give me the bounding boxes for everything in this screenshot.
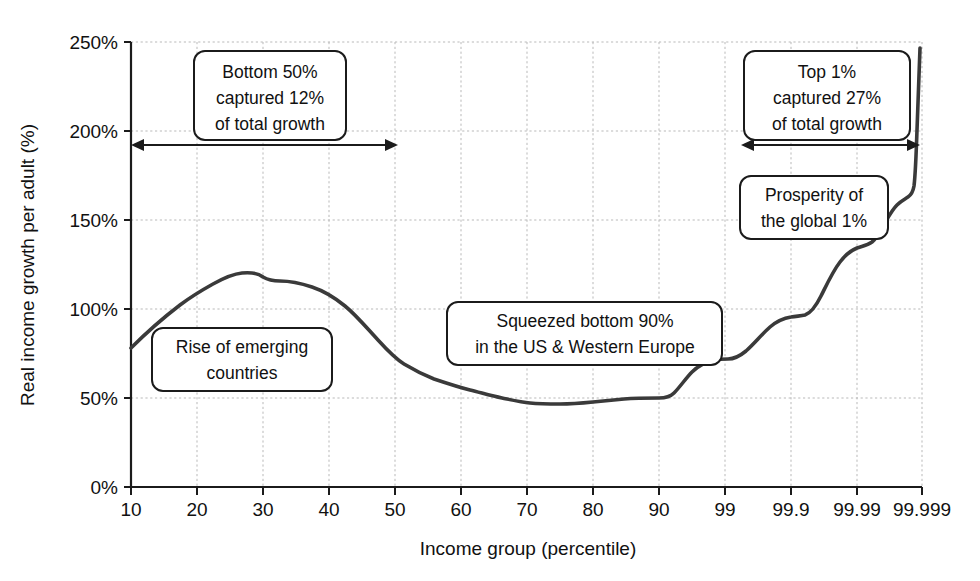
annotation-prosperity-global-1-line-2: the global 1% (761, 211, 867, 231)
ytick-label-100: 100% (69, 299, 118, 320)
arrow-head-left-icon (131, 139, 144, 151)
annotation-squeezed-bottom-90: Squeezed bottom 90% in the US & Western … (447, 302, 722, 365)
ytick-label-50: 50% (80, 388, 118, 409)
xtick-label-99-99: 99.99 (833, 499, 881, 520)
y-axis-title: Real income growth per adult (%) (17, 124, 38, 406)
xtick-label-99-999: 99.999 (893, 499, 951, 520)
annotation-rise-emerging-line-2: countries (206, 363, 277, 383)
xtick-label-50: 50 (384, 499, 405, 520)
annotation-bottom-50-line-1: Bottom 50% (222, 62, 317, 82)
x-axis-title: Income group (percentile) (420, 538, 637, 559)
annotation-top-1-line-3: of total growth (772, 114, 882, 134)
xtick-label-70: 70 (516, 499, 537, 520)
arrow-head-right-icon (385, 139, 398, 151)
annotation-prosperity-global-1-line-1: Prosperity of (765, 185, 863, 205)
ytick-label-200: 200% (69, 121, 118, 142)
xtick-label-40: 40 (318, 499, 339, 520)
elephant-curve-chart: 250% 200% 150% 100% 50% 0% 10 20 30 40 5… (0, 0, 980, 581)
xtick-label-30: 30 (252, 499, 273, 520)
xtick-label-90: 90 (648, 499, 669, 520)
annotation-squeezed-bottom-90-line-1: Squeezed bottom 90% (496, 311, 673, 331)
annotation-top-1-line-1: Top 1% (798, 62, 856, 82)
annotation-squeezed-bottom-90-line-2: in the US & Western Europe (475, 337, 695, 357)
x-axis-tick-labels: 10 20 30 40 50 60 70 80 90 99 99.9 99.99… (120, 499, 951, 520)
chart-canvas: 250% 200% 150% 100% 50% 0% 10 20 30 40 5… (0, 0, 980, 581)
y-axis-tick-labels: 250% 200% 150% 100% 50% 0% (69, 32, 118, 498)
xtick-label-60: 60 (450, 499, 471, 520)
ytick-label-250: 250% (69, 32, 118, 53)
annotation-rise-emerging: Rise of emerging countries (152, 328, 332, 391)
annotation-bottom-50-line-3: of total growth (215, 114, 325, 134)
annotation-top-1: Top 1% captured 27% of total growth (744, 51, 910, 140)
xtick-label-20: 20 (186, 499, 207, 520)
xtick-label-10: 10 (120, 499, 141, 520)
annotation-rise-emerging-line-1: Rise of emerging (176, 337, 308, 357)
xtick-label-99: 99 (714, 499, 735, 520)
annotation-top-1-line-2: captured 27% (773, 88, 881, 108)
ytick-label-0: 0% (91, 477, 119, 498)
ytick-label-150: 150% (69, 210, 118, 231)
arrow-head-left-icon (741, 139, 754, 151)
annotation-prosperity-global-1: Prosperity of the global 1% (740, 176, 888, 239)
xtick-label-80: 80 (582, 499, 603, 520)
annotation-bottom-50: Bottom 50% captured 12% of total growth (194, 51, 346, 140)
x-tick-marks (131, 487, 922, 495)
xtick-label-99-9: 99.9 (773, 499, 810, 520)
annotation-bottom-50-line-2: captured 12% (216, 88, 324, 108)
